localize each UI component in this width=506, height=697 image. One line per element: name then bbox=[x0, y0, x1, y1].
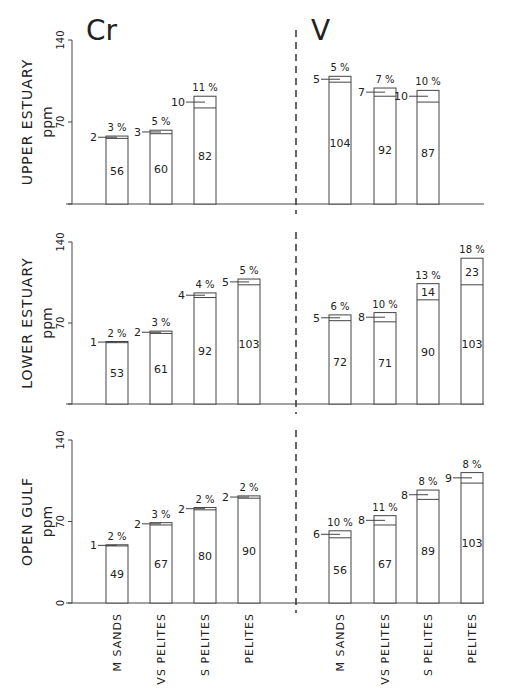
bar-extra-label: 2 bbox=[90, 131, 97, 144]
bar-percent-label: 7 % bbox=[375, 74, 394, 85]
x-category-label: S PELITES bbox=[199, 613, 212, 676]
bar-percent-label: 3 % bbox=[107, 122, 126, 133]
y-tick-label: 140 bbox=[55, 30, 66, 49]
bar-v-pelites: 10398 % bbox=[445, 459, 483, 603]
bar-v-m-sands: 7256 % bbox=[313, 301, 351, 404]
y-tick-label: 140 bbox=[55, 232, 66, 251]
bar-percent-label: 10 % bbox=[415, 76, 440, 87]
panel-upper-estuary: 70140UPPER ESTUARYppm5623 %6035 %821011 … bbox=[19, 30, 484, 214]
bar-percent-label: 5 % bbox=[239, 265, 258, 276]
y-tick-label: 70 bbox=[55, 317, 66, 330]
x-category-label: PELITES bbox=[466, 613, 479, 664]
bar-extra-label: 7 bbox=[358, 86, 365, 99]
bar-percent-label: 2 % bbox=[195, 494, 214, 505]
bar-cr-vs-pelites: 6123 % bbox=[134, 317, 172, 404]
row-label: LOWER ESTUARY bbox=[19, 257, 35, 389]
bar-cr-m-sands: 5312 % bbox=[90, 328, 128, 404]
bar-extra-label: 5 bbox=[313, 73, 320, 86]
bar-extra-label: 1 bbox=[90, 336, 97, 349]
bar-v-m-sands: 10455 % bbox=[313, 62, 351, 204]
bar-v-s-pelites: 8988 % bbox=[401, 476, 439, 603]
bar-value-label: 56 bbox=[110, 165, 124, 178]
bar-value-label: 67 bbox=[378, 558, 392, 571]
bar-percent-label: 6 % bbox=[330, 301, 349, 312]
bar-extra-label: 23 bbox=[465, 266, 479, 279]
bar-value-label: 60 bbox=[154, 163, 168, 176]
x-category-label: VS PELITES bbox=[155, 613, 168, 685]
bar-percent-label: 8 % bbox=[418, 476, 437, 487]
bar-cr-s-pelites: 9244 % bbox=[178, 279, 216, 404]
bar-percent-label: 3 % bbox=[151, 317, 170, 328]
x-category-label: VS PELITES bbox=[379, 613, 392, 685]
y-tick-label: 70 bbox=[55, 515, 66, 528]
bar-extra-label: 14 bbox=[421, 286, 435, 299]
bar-value-label: 89 bbox=[421, 545, 435, 558]
y-unit-label: ppm bbox=[39, 506, 55, 537]
bar-v-m-sands: 56610 % bbox=[313, 517, 353, 603]
bar-cr-m-sands: 5623 % bbox=[90, 122, 128, 204]
panel-lower-estuary: 70140LOWER ESTUARYppm5312 %6123 %9244 %1… bbox=[19, 232, 485, 414]
x-category-label: M SANDS bbox=[334, 613, 347, 671]
bar-percent-label: 8 % bbox=[462, 459, 481, 470]
y-tick-label: 0 bbox=[55, 600, 66, 606]
bar-percent-label: 10 % bbox=[372, 299, 397, 310]
title-v: V bbox=[311, 14, 330, 47]
bar-extra-label: 10 bbox=[171, 96, 185, 109]
bar-percent-label: 10 % bbox=[327, 517, 352, 528]
bar-percent-label: 3 % bbox=[151, 509, 170, 520]
bar-extra-label: 2 bbox=[134, 518, 141, 531]
bar-cr-m-sands: 4912 % bbox=[90, 531, 128, 603]
bar-cr-vs-pelites: 6035 % bbox=[134, 116, 172, 204]
bar-value-label: 80 bbox=[198, 550, 212, 563]
bar-extra-label: 8 bbox=[358, 311, 365, 324]
bar-extra-label: 3 bbox=[134, 126, 141, 139]
x-category-label: PELITES bbox=[243, 613, 256, 664]
y-tick-label: 70 bbox=[55, 116, 66, 129]
bar-value-label: 71 bbox=[378, 357, 392, 370]
bar-percent-label: 5 % bbox=[151, 116, 170, 127]
bar-v-pelites: 1032318 % bbox=[459, 244, 484, 404]
bar-value-label: 67 bbox=[154, 558, 168, 571]
bar-value-label: 104 bbox=[330, 137, 351, 150]
bar-percent-label: 13 % bbox=[415, 270, 440, 281]
bar-percent-label: 11 % bbox=[372, 502, 397, 513]
bar-value-label: 53 bbox=[110, 367, 124, 380]
bar-extra-label: 1 bbox=[90, 539, 97, 552]
bar-cr-pelites: 9022 % bbox=[222, 482, 260, 603]
bar-value-label: 103 bbox=[462, 338, 483, 351]
bar-percent-label: 18 % bbox=[459, 244, 484, 255]
bar-percent-label: 2 % bbox=[107, 531, 126, 542]
bar-extra-label: 2 bbox=[134, 326, 141, 339]
bar-extra-label: 5 bbox=[222, 276, 229, 289]
bar-value-label: 90 bbox=[242, 545, 256, 558]
bar-value-label: 90 bbox=[421, 346, 435, 359]
bar-cr-vs-pelites: 6723 % bbox=[134, 509, 172, 603]
bar-value-label: 61 bbox=[154, 363, 168, 376]
x-category-label: S PELITES bbox=[422, 613, 435, 676]
bar-value-label: 87 bbox=[421, 147, 435, 160]
bar-percent-label: 2 % bbox=[239, 482, 258, 493]
bar-value-label: 56 bbox=[333, 564, 347, 577]
bar-extra-label: 9 bbox=[445, 472, 452, 485]
bar-extra-label: 8 bbox=[358, 514, 365, 527]
bar-v-vs-pelites: 67811 % bbox=[358, 502, 398, 603]
bar-extra-label: 8 bbox=[401, 489, 408, 502]
bar-v-vs-pelites: 71810 % bbox=[358, 299, 398, 404]
bar-value-label: 72 bbox=[333, 356, 347, 369]
bar-percent-label: 5 % bbox=[330, 62, 349, 73]
bar-percent-label: 2 % bbox=[107, 328, 126, 339]
figure: Cr V 70140UPPER ESTUARYppm5623 %6035 %82… bbox=[0, 0, 506, 697]
row-label: OPEN GULF bbox=[19, 477, 35, 566]
bar-extra-label: 2 bbox=[178, 503, 185, 516]
y-unit-label: ppm bbox=[39, 307, 55, 338]
bar-percent-label: 11 % bbox=[192, 82, 217, 93]
bar-value-label: 92 bbox=[198, 345, 212, 358]
bar-value-label: 103 bbox=[462, 537, 483, 550]
panel-open-gulf: 070140OPEN GULFppm4912 %6723 %8022 %9022… bbox=[19, 430, 484, 613]
row-label: UPPER ESTUARY bbox=[19, 59, 35, 186]
bar-extra-label: 2 bbox=[222, 491, 229, 504]
y-unit-label: ppm bbox=[39, 106, 55, 137]
bar-cr-s-pelites: 821011 % bbox=[171, 82, 218, 204]
bar-percent-label: 4 % bbox=[195, 279, 214, 290]
bar-value-label: 49 bbox=[110, 568, 124, 581]
